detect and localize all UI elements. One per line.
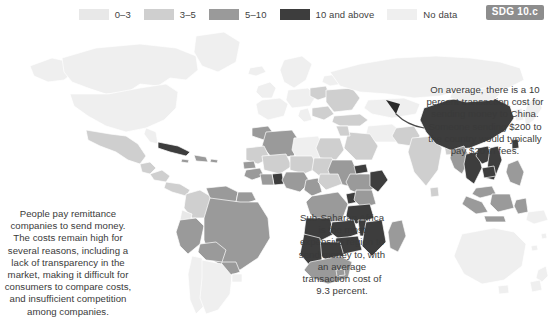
- country-guatemala-belize: [140, 162, 156, 174]
- country-greenland: [194, 32, 240, 72]
- country-java: [484, 216, 506, 222]
- country-madagascar: [388, 220, 406, 252]
- legend-swatch-0-3: [79, 9, 109, 20]
- legend-item-5-10: 5–10: [209, 9, 267, 20]
- legend-item-no-data: No data: [387, 9, 457, 20]
- annotation-remittance-costs: People pay remittance companies to send …: [4, 208, 132, 318]
- legend-item-0-3: 0–3: [79, 9, 131, 20]
- annotation-china: On average, there is a 10 percent transa…: [424, 84, 546, 157]
- country-mali: [262, 154, 292, 174]
- country-cambodia: [482, 166, 496, 178]
- island-fiji: [541, 233, 547, 239]
- country-honduras-nicaragua: [150, 170, 170, 182]
- country-borneo: [490, 194, 514, 212]
- country-usa: [70, 84, 178, 132]
- legend-swatch-3-5: [144, 9, 174, 20]
- legend-label-no-data: No data: [423, 9, 457, 20]
- remittance-cost-map-figure: 0–3 3–5 5–10 10 and above No data SDG 10…: [0, 0, 549, 330]
- country-cuba: [158, 142, 190, 156]
- country-levant: [336, 126, 350, 136]
- country-italy: [298, 108, 312, 122]
- country-tasmania: [498, 285, 509, 294]
- map-legend: 0–3 3–5 5–10 10 and above No data: [0, 4, 549, 24]
- island-new-caledonia: [531, 245, 538, 251]
- country-france-iberia: [256, 98, 288, 120]
- sdg-badge: SDG 10.c: [486, 5, 544, 20]
- country-romania-ukraine: [326, 88, 360, 112]
- country-new-zealand-south: [530, 280, 542, 292]
- legend-swatch-5-10: [209, 9, 239, 20]
- country-new-zealand: [536, 266, 548, 282]
- annotation-sub-saharan-africa: Sub-Saharan Africa is the most expensive…: [296, 212, 388, 297]
- country-turkey: [332, 114, 368, 126]
- country-ivorycoast: [260, 174, 274, 185]
- legend-item-3-5: 3–5: [144, 9, 196, 20]
- legend-item-10-and-above: 10 and above: [280, 9, 375, 20]
- legend-label-5-10: 5–10: [245, 9, 267, 20]
- legend-swatch-10-and-above: [280, 9, 310, 20]
- legend-label-0-3: 0–3: [115, 9, 131, 20]
- country-canada: [62, 44, 198, 94]
- country-egypt: [316, 138, 344, 160]
- country-puerto-rico: [210, 159, 218, 163]
- country-jamaica: [181, 159, 189, 163]
- country-senegal: [243, 161, 256, 169]
- country-australia: [454, 228, 526, 284]
- country-scandinavia: [280, 56, 312, 88]
- country-srilanka: [430, 187, 439, 197]
- country-iceland: [248, 66, 266, 76]
- country-eritrea-djibouti: [354, 164, 368, 174]
- country-sumatra: [462, 196, 488, 214]
- country-mexico: [86, 130, 146, 164]
- country-usa-florida: [144, 128, 158, 144]
- country-car: [318, 174, 342, 190]
- legend-swatch-no-data: [387, 9, 417, 20]
- legend-label-10-and-above: 10 and above: [316, 9, 375, 20]
- country-uruguay: [232, 274, 242, 282]
- country-sulawesi: [514, 198, 528, 214]
- country-papua: [526, 210, 548, 224]
- country-philippines: [506, 160, 524, 186]
- country-uk-ireland: [256, 82, 276, 98]
- country-hispaniola: [194, 155, 208, 162]
- legend-label-3-5: 3–5: [180, 9, 196, 20]
